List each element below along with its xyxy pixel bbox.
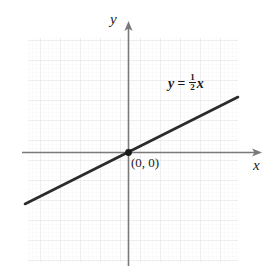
equation-variable: x xyxy=(197,77,204,91)
x-axis-label: x xyxy=(253,158,260,173)
coordinate-plane xyxy=(0,0,276,275)
fraction-denominator: 2 xyxy=(189,82,196,92)
y-axis-label: y xyxy=(110,12,117,27)
equation-label: y = 1 2 x xyxy=(168,74,204,94)
equation-relation: = xyxy=(177,77,185,91)
origin-coordinate-label: (0, 0) xyxy=(131,156,159,169)
fraction-numerator: 1 xyxy=(189,73,196,82)
equation-fraction: 1 2 xyxy=(189,73,196,93)
graph-figure: y x (0, 0) y = 1 2 x xyxy=(0,0,276,275)
equation-lhs: y xyxy=(168,77,174,91)
